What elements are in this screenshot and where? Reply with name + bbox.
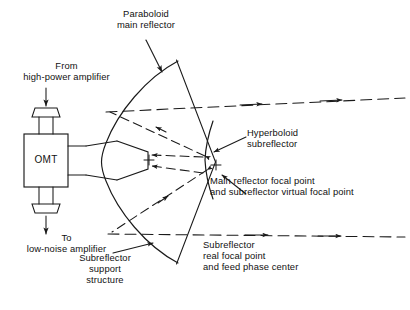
ray-feed-to-sub-lower — [152, 166, 203, 173]
label-omt: OMT — [29, 154, 63, 165]
label-subreflector-support-structure: Subreflector support structure — [50, 252, 160, 286]
feed-horn-throat-lower — [86, 175, 117, 180]
label-hyperboloid-subreflector: Hyperboloid subreflector — [247, 127, 367, 149]
feed-horn-outline — [117, 141, 148, 180]
ray-sub-to-main-lower-midarrow — [158, 196, 168, 203]
label-paraboloid-main-reflector: Paraboloid main reflector — [98, 8, 194, 30]
ray-feed-to-sub-upper — [152, 155, 203, 157]
omt-top-flange — [32, 108, 60, 117]
diagram-canvas: Paraboloid main reflector From high-powe… — [0, 0, 410, 310]
ray-sub-to-main-upper — [110, 112, 205, 156]
label-from-high-power-amplifier: From high-power amplifier — [0, 60, 133, 82]
ray-aperture-upper-arrow-b — [320, 100, 342, 101]
support-strut-upper — [177, 60, 216, 162]
label-main-reflector-focal-point: Main reflector focal point and subreflec… — [210, 175, 410, 197]
focal-cross-feed-phase-center — [144, 155, 154, 165]
ray-sub-to-main-upper-midarrow — [156, 127, 166, 132]
leader-hyperboloid — [214, 137, 246, 152]
ray-aperture-upper — [106, 98, 405, 112]
leader-paraboloid — [146, 40, 162, 72]
label-subreflector-real-focal-point: Subreflector real focal point and feed p… — [203, 239, 378, 273]
feed-horn-throat-upper — [86, 141, 117, 146]
omt-bottom-flange — [32, 204, 60, 213]
